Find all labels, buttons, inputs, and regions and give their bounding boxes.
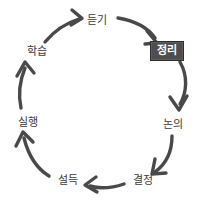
node-execution[interactable]: 실행 <box>18 117 38 128</box>
arrow-execution-to-learning <box>17 62 34 108</box>
arrow-persuasion-to-execution <box>16 132 49 176</box>
arrow-decision-to-persuasion <box>85 177 124 192</box>
node-organizing[interactable]: 정리 <box>150 41 184 61</box>
cycle-diagram: 듣기 정리 논의 결정 설득 실행 학습 <box>0 0 203 213</box>
node-learning[interactable]: 학습 <box>27 46 47 57</box>
arrow-learning-to-listening <box>45 10 82 42</box>
arrow-organizing-to-discussion <box>170 62 187 110</box>
node-persuasion[interactable]: 설득 <box>58 175 78 186</box>
node-listening[interactable]: 듣기 <box>87 15 107 26</box>
arrow-discussion-to-decision <box>152 136 172 174</box>
cycle-arrows-group <box>0 0 203 213</box>
node-discussion[interactable]: 논의 <box>163 119 183 130</box>
node-decision[interactable]: 결정 <box>133 175 153 186</box>
